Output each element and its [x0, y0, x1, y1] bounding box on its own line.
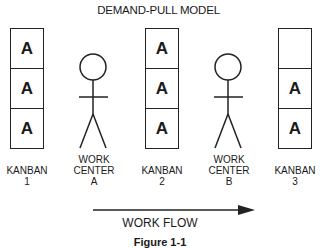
kanban-3-stack: A A [278, 28, 312, 149]
kanban-1-stack: A A A [10, 28, 44, 149]
kanban-card: A [11, 29, 43, 69]
kanban-card: A [279, 69, 311, 109]
figure-caption: Figure 1-1 [130, 236, 190, 248]
stick-figure-icon [77, 52, 109, 150]
kanban-2-stack: A A A [145, 28, 179, 149]
kanban-card: A [146, 69, 178, 109]
work-center-b-label: WORK CENTER B [199, 154, 259, 187]
kanban-card-empty [279, 29, 311, 69]
kanban-card: A [279, 109, 311, 148]
kanban-card: A [146, 29, 178, 69]
stick-figure-icon [212, 52, 244, 150]
kanban-card: A [11, 69, 43, 109]
kanban-card: A [146, 109, 178, 148]
kanban-card: A [11, 109, 43, 148]
work-center-a-label: WORK CENTER A [64, 154, 124, 187]
right-arrow-icon [90, 203, 256, 217]
diagram-title: DEMAND-PULL MODEL [0, 4, 317, 16]
kanban-3-label: KANBAN 3 [265, 165, 320, 187]
work-flow-label: WORK FLOW [120, 216, 200, 230]
kanban-2-label: KANBAN 2 [132, 165, 192, 187]
kanban-1-label: KANBAN 1 [0, 165, 57, 187]
